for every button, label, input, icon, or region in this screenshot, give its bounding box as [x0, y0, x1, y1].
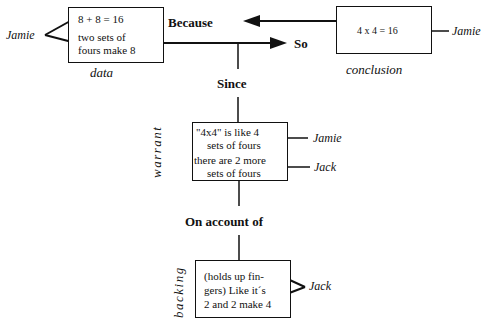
data-line-3: fours make 8: [78, 45, 135, 56]
warrant-line-3: there are 2 more: [194, 155, 266, 166]
conclusion-box: 4 x 4 = 16: [336, 6, 432, 54]
conclusion-label: conclusion: [346, 63, 402, 76]
warrant-line-4: sets of fours: [207, 168, 261, 179]
since-label: Since: [217, 77, 247, 90]
data-label: data: [90, 66, 113, 79]
because-label: Because: [168, 16, 213, 29]
warrant-line-2: sets of fours: [207, 140, 261, 151]
backing-label: backing: [171, 266, 187, 318]
data-line-1: 8 + 8 = 16: [78, 14, 123, 25]
warrant-speaker-jamie: Jamie: [313, 132, 342, 144]
data-speaker-jamie: Jamie: [6, 29, 35, 41]
warrant-speaker-jack: Jack: [314, 161, 336, 173]
warrant-box: "4x4" is like 4 sets of fours there are …: [192, 122, 288, 181]
warrant-line-1: "4x4" is like 4: [196, 127, 259, 138]
toulmin-diagram: Jamie 8 + 8 = 16 two sets of fours make …: [0, 0, 489, 325]
on-account-of-label: On account of: [185, 215, 263, 228]
conclusion-speaker-jamie: Jamie: [452, 25, 481, 37]
data-box: 8 + 8 = 16 two sets of fours make 8: [68, 7, 164, 63]
backing-line-2: gers) Like it´s: [204, 285, 266, 296]
backing-speaker-jack: Jack: [309, 280, 331, 292]
backing-box: (holds up fin- gers) Like it´s 2 and 2 m…: [195, 260, 291, 318]
warrant-label: warrant: [149, 126, 165, 178]
conclusion-text: 4 x 4 = 16: [357, 26, 398, 36]
backing-line-1: (holds up fin-: [204, 271, 264, 282]
data-line-2: two sets of: [78, 32, 126, 43]
so-label: So: [294, 37, 308, 50]
backing-line-3: 2 and 2 make 4: [204, 299, 271, 310]
